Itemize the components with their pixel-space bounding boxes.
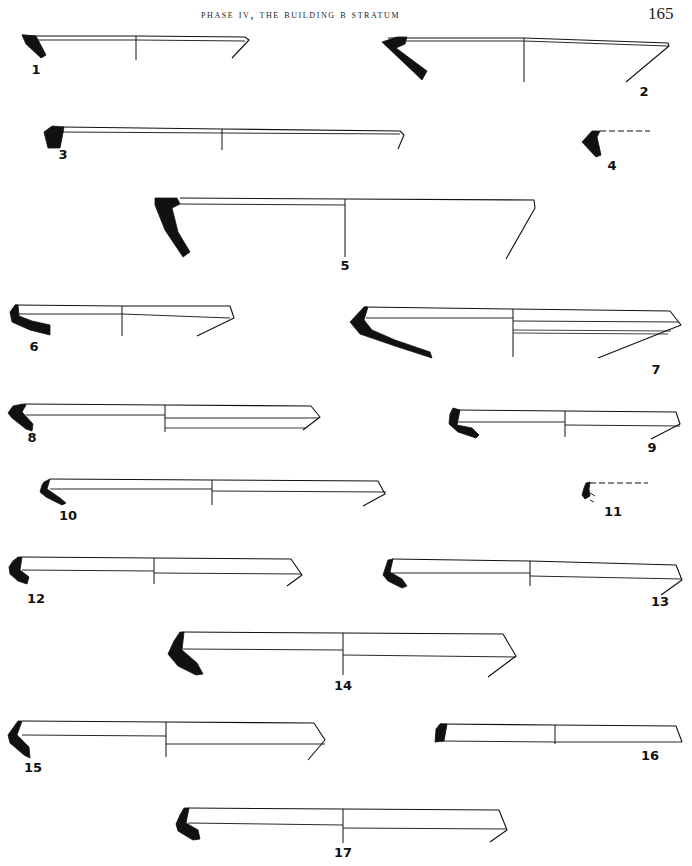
figure-number-10: 10	[59, 508, 77, 523]
vessel-profile-3	[44, 126, 404, 150]
vessel-profile-4	[582, 131, 650, 157]
figure-number-3: 3	[58, 147, 67, 162]
figure-number-13: 13	[651, 594, 669, 609]
vessel-profile-13	[383, 559, 682, 595]
figure-number-15: 15	[24, 760, 42, 775]
figure-number-5: 5	[340, 258, 349, 273]
figure-number-1: 1	[31, 62, 40, 77]
figure-number-2: 2	[639, 84, 648, 99]
pottery-profiles-plate	[0, 0, 692, 866]
figure-number-9: 9	[647, 440, 656, 455]
vessel-profile-7	[350, 307, 681, 358]
vessel-profile-2	[382, 37, 669, 82]
vessel-profile-10	[40, 479, 386, 506]
figure-number-4: 4	[607, 158, 616, 173]
vessel-profile-1	[22, 35, 249, 60]
vessel-profile-8	[8, 404, 320, 432]
figure-number-16: 16	[641, 748, 659, 763]
figure-number-11: 11	[604, 504, 622, 519]
figure-number-7: 7	[651, 362, 660, 377]
vessel-profile-14	[168, 632, 516, 677]
vessel-profile-12	[9, 557, 302, 586]
figure-number-14: 14	[334, 678, 352, 693]
figure-number-12: 12	[27, 591, 45, 606]
vessel-profile-17	[176, 808, 507, 843]
vessel-profile-16	[435, 724, 682, 744]
figure-number-8: 8	[27, 430, 36, 445]
vessel-profile-11	[582, 482, 648, 502]
vessel-profile-5	[155, 198, 535, 259]
figure-number-6: 6	[29, 339, 38, 354]
figure-number-17: 17	[334, 845, 352, 860]
vessel-profile-15	[8, 721, 325, 760]
vessel-profile-6	[10, 305, 234, 336]
vessel-profile-9	[449, 408, 680, 439]
